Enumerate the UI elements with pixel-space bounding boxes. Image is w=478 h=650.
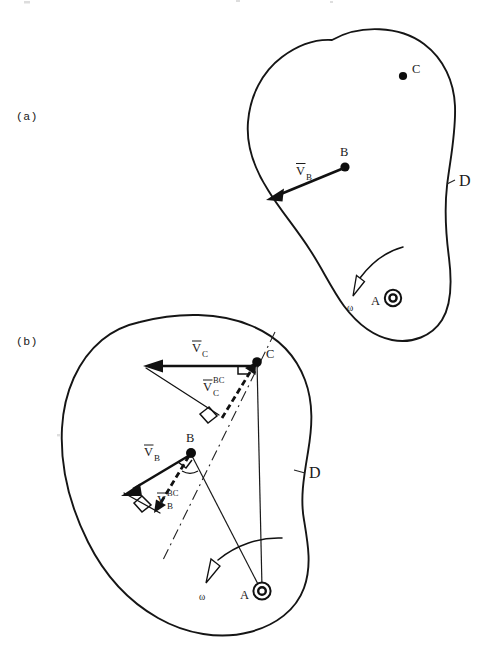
vb-a-symbol: V: [296, 164, 305, 178]
pivot-a-label-panel-b: A: [240, 588, 249, 602]
vc-bc-subscript: C: [213, 388, 219, 398]
panel-b-caption: (b): [16, 335, 38, 348]
vc-symbol: V: [192, 341, 201, 355]
body-outline-a: [248, 29, 455, 341]
omega-label-a: ω: [347, 303, 353, 313]
vc-subscript: C: [202, 349, 208, 359]
point-b-a: B: [340, 145, 350, 172]
vb-bc-subscript: B: [167, 501, 173, 511]
vb-bc-superscript: BC: [167, 488, 179, 498]
body-outline-b: [62, 315, 312, 636]
pivot-a-label-panel-a: A: [371, 294, 380, 308]
kinematics-figure: (a) D C B: [0, 0, 478, 650]
panel-a: (a) D C B: [16, 29, 471, 341]
figure-canvas: (a) D C B: [0, 0, 478, 650]
vb-a-subscript: B: [306, 172, 312, 182]
vc-bc-superscript: BC: [213, 375, 225, 385]
vb-bc-symbol: V: [157, 493, 166, 507]
point-b-a-label: B: [340, 145, 348, 159]
point-b-b-label: B: [186, 431, 194, 445]
panel-a-caption: (a): [16, 110, 38, 123]
point-c-a-label: C: [412, 62, 420, 76]
vb-b-subscript: B: [154, 453, 160, 463]
body-label-a: D: [459, 172, 471, 189]
panel-b: (b) D: [16, 315, 321, 636]
vb-b-symbol: V: [144, 445, 153, 459]
vc-bc-symbol: V: [203, 380, 212, 394]
point-c-b-label: C: [266, 347, 274, 361]
omega-label-b: ω: [199, 592, 205, 602]
body-label-b: D: [309, 464, 321, 481]
body-label-a-group: D: [447, 172, 471, 189]
